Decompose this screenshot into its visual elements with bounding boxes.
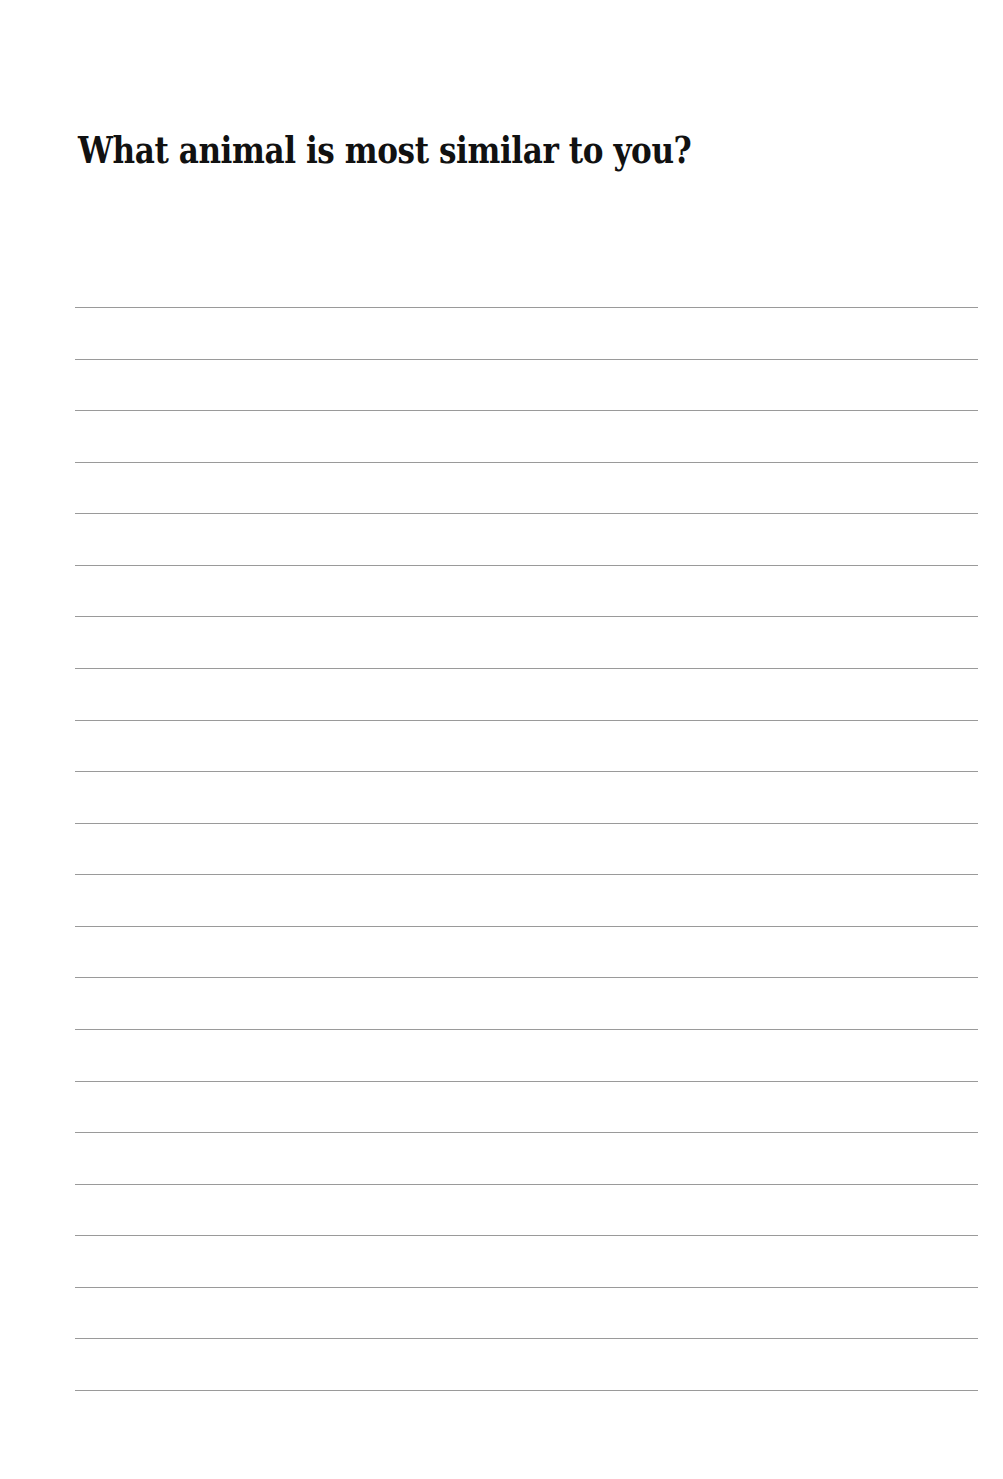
writing-line xyxy=(75,513,978,514)
writing-line xyxy=(75,1235,978,1236)
writing-line xyxy=(75,720,978,721)
writing-line xyxy=(75,771,978,772)
writing-line xyxy=(75,1184,978,1185)
writing-line xyxy=(75,1132,978,1133)
writing-line xyxy=(75,977,978,978)
writing-line xyxy=(75,823,978,824)
writing-lines-area[interactable] xyxy=(75,0,978,1479)
writing-line xyxy=(75,359,978,360)
writing-line xyxy=(75,926,978,927)
writing-line xyxy=(75,1029,978,1030)
writing-line xyxy=(75,1287,978,1288)
writing-line xyxy=(75,616,978,617)
writing-line xyxy=(75,1338,978,1339)
writing-line xyxy=(75,307,978,308)
writing-line xyxy=(75,462,978,463)
writing-line xyxy=(75,1390,978,1391)
writing-line xyxy=(75,1081,978,1082)
writing-line xyxy=(75,565,978,566)
writing-line xyxy=(75,410,978,411)
writing-line xyxy=(75,668,978,669)
writing-line xyxy=(75,874,978,875)
